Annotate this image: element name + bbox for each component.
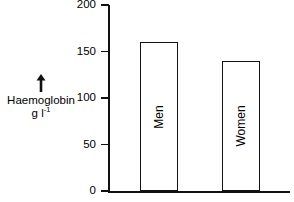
y-tick-label-100: 100: [36, 92, 96, 104]
x-axis-line: [108, 191, 290, 193]
y-tick-label-50: 50: [36, 139, 96, 151]
y-tick-mark-100: [101, 97, 109, 99]
y-axis-line: [108, 5, 110, 193]
bar-women: Women: [222, 61, 260, 191]
y-tick-mark-150: [101, 51, 109, 53]
y-tick-label-0: 0: [36, 185, 96, 197]
plot-area: 200 150 100 50 0 Men Women: [0, 0, 294, 202]
y-tick-label-150: 150: [36, 46, 96, 58]
bar-label-men: Men: [152, 105, 166, 128]
y-tick-mark-50: [101, 144, 109, 146]
bar-men: Men: [140, 42, 178, 191]
y-tick-mark-0: [101, 190, 109, 192]
y-tick-mark-200: [101, 4, 109, 6]
y-tick-label-200: 200: [36, 0, 96, 11]
bar-chart-figure: Haemoglobin g l-1 200 150 100 50 0 Men W…: [0, 0, 294, 202]
bar-label-women: Women: [234, 105, 248, 146]
